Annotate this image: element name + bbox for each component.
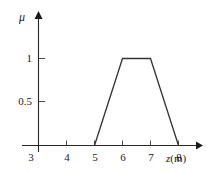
x-axis-arrow-icon (196, 142, 203, 150)
x-axis-label-unit: (m) (170, 152, 186, 164)
x-tick-label-5: 5 (86, 152, 104, 163)
y-axis-arrow-icon (35, 11, 43, 19)
y-axis-label: μ (19, 11, 25, 23)
x-tick-label-3: 3 (22, 152, 40, 163)
membership-function-trace (95, 59, 179, 146)
y-tick-label-0point5: 0.5 (6, 96, 32, 107)
chart-canvas (0, 0, 211, 171)
y-tick-label-1: 1 (6, 53, 32, 64)
x-tick-label-6: 6 (114, 152, 132, 163)
x-axis-label: z(m) (166, 153, 186, 164)
fuzzy-membership-chart: μ 1 0.5 3 4 5 6 7 8 z(m) (0, 0, 211, 171)
x-tick-label-7: 7 (142, 152, 160, 163)
x-tick-label-4: 4 (58, 152, 76, 163)
